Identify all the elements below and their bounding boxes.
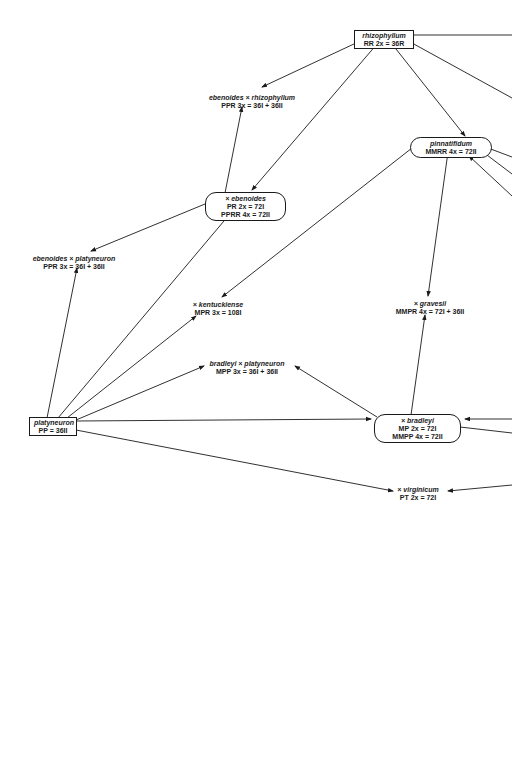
edge-rhizophyllum-to-x-ebenoides xyxy=(252,44,377,190)
edge-rhizophyllum-to-pinnatifidum xyxy=(392,44,465,136)
node-name: × kentuckiense xyxy=(178,301,258,309)
node-karyotype: MMRR 4x = 72II xyxy=(421,148,481,156)
node-name: platyneuron xyxy=(34,419,72,427)
node-karyotype: PPR 3x = 36I + 36II xyxy=(24,263,124,271)
edge-rhizophyllum-to-ebenoides-x-rhizophyllum xyxy=(262,43,356,87)
edge-into-pinnatifidum xyxy=(469,156,512,196)
node-pinnatifidum: pinnatifidum MMRR 4x = 72II xyxy=(410,137,492,158)
node-name: ebenoides × rhizophyllum xyxy=(200,94,304,102)
node-name: × gravesii xyxy=(380,300,480,308)
node-karyotype: RR 2x = 36R xyxy=(359,40,409,48)
node-karyotype: MPR 3x = 108I xyxy=(178,309,258,317)
node-x-gravesii: × gravesii MMPR 4x = 72I + 36II xyxy=(380,300,480,316)
edge-pinnatifidum-to-x-gravesii xyxy=(428,152,448,296)
node-karyotype-2: MMPP 4x = 72II xyxy=(385,433,450,441)
node-karyotype: MP 2x = 72I xyxy=(385,425,450,433)
edge-rhizophyllum-right xyxy=(412,43,512,98)
node-x-kentuckiense: × kentuckiense MPR 3x = 108I xyxy=(178,301,258,317)
node-platyneuron: platyneuron PP = 36II xyxy=(29,417,77,436)
node-karyotype: MMPR 4x = 72I + 36II xyxy=(380,308,480,316)
node-name: bradleyi × platyneuron xyxy=(197,360,297,368)
node-name: pinnatifidum xyxy=(421,140,481,148)
node-karyotype-2: PPRR 4x = 72II xyxy=(216,211,275,219)
node-name: rhizophyllum xyxy=(359,32,409,40)
node-karyotype: PP = 36II xyxy=(34,427,72,435)
edge-platyneuron-to-x-bradleyi xyxy=(76,419,371,421)
edge-x-ebenoides-to-ebenoides-x-rhizophyllum xyxy=(225,107,242,193)
node-name: × ebenoides xyxy=(216,195,275,203)
node-karyotype: PR 2x = 72I xyxy=(216,203,275,211)
node-rhizophyllum: rhizophyllum RR 2x = 36R xyxy=(354,30,414,49)
edge-x-bradleyi-to-bradleyi-x-platyneuron xyxy=(295,366,377,417)
node-ebenoides-x-platyneuron: ebenoides × platyneuron PPR 3x = 36I + 3… xyxy=(24,255,124,271)
node-name: × bradleyi xyxy=(385,417,450,425)
node-ebenoides-x-rhizophyllum: ebenoides × rhizophyllum PPR 3x = 36I + … xyxy=(200,94,304,110)
node-bradleyi-x-platyneuron: bradleyi × platyneuron MPP 3x = 36I + 36… xyxy=(197,360,297,376)
edge-into-x-virginicum xyxy=(448,485,512,491)
edge-platyneuron-to-x-virginicum xyxy=(76,430,393,491)
edge-platyneuron-to-ebenoides-x-platyneuron xyxy=(47,268,77,418)
node-x-bradleyi: × bradleyi MP 2x = 72I MMPP 4x = 72II xyxy=(374,414,461,443)
node-karyotype: PT 2x = 72I xyxy=(388,494,448,502)
edge-x-bradleyi-right xyxy=(460,427,512,433)
edge-pinnatifidum-to-x-kentuckiense xyxy=(222,148,412,297)
node-x-ebenoides: × ebenoides PR 2x = 72I PPRR 4x = 72II xyxy=(205,192,286,221)
edge-x-ebenoides-to-ebenoides-x-platyneuron xyxy=(91,204,205,251)
node-x-virginicum: × virginicum PT 2x = 72I xyxy=(388,486,448,502)
node-karyotype: MPP 3x = 36I + 36II xyxy=(197,368,297,376)
edge-x-bradleyi-to-x-gravesii xyxy=(411,315,425,415)
node-name: ebenoides × platyneuron xyxy=(24,255,124,263)
node-name: × virginicum xyxy=(388,486,448,494)
edge-layer xyxy=(0,0,512,767)
node-karyotype: PPR 3x = 36I + 36II xyxy=(200,102,304,110)
